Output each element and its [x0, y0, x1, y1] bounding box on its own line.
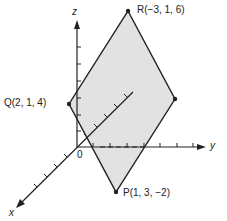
y-axis-label: y: [210, 140, 215, 151]
origin-label: 0: [77, 149, 83, 160]
point-S: [173, 97, 177, 101]
parallelogram: [69, 11, 175, 192]
parallelogram-3d-diagram: z y x 0 R(−3, 1, 6) Q(2, 1, 4) P(1, 3, −…: [0, 0, 227, 221]
y-arrow-icon: [197, 144, 206, 150]
diagram-canvas: [0, 0, 227, 221]
point-R-label: R(−3, 1, 6): [137, 4, 185, 15]
x-axis-label: x: [9, 207, 14, 218]
point-P-label: P(1, 3, −2): [123, 187, 170, 198]
point-Q: [67, 102, 71, 106]
point-Q-label: Q(2, 1, 4): [4, 97, 46, 108]
point-R: [126, 9, 130, 13]
z-arrow-icon: [74, 20, 80, 29]
z-axis-label: z: [72, 6, 77, 17]
point-P: [114, 190, 118, 194]
